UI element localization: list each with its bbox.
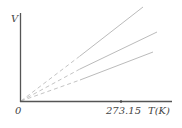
line-3-dashed: [21, 80, 80, 101]
line-3-solid: [80, 52, 153, 80]
tick-label: 273.15: [105, 105, 141, 116]
y-axis-label: V: [11, 13, 20, 24]
line-2-solid: [80, 32, 157, 69]
line-1-solid: [80, 7, 143, 56]
line-1-dashed: [21, 56, 80, 101]
tick-273: [120, 100, 122, 102]
charles-law-diagram: V 0 273.15 T(K): [0, 0, 182, 128]
line-2-dashed: [21, 69, 80, 101]
origin-label: 0: [15, 105, 22, 116]
extrapolation-lines: [21, 7, 157, 101]
x-axis-label: T(K): [148, 105, 170, 116]
